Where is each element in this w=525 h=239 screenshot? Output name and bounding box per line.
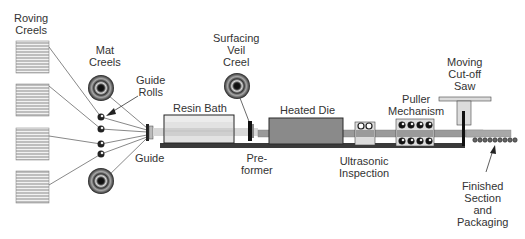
- label-moving-cutoff-saw: Moving Cut-off Saw: [447, 56, 482, 92]
- roving-creel-2: [16, 84, 49, 116]
- roving-creels: [16, 41, 49, 203]
- heated-die: [269, 118, 343, 144]
- finished-sections: [473, 138, 517, 142]
- label-mat-creels: Mat Creels: [89, 44, 121, 68]
- label-surfacing-veil-creel: Surfacing Veil Creel: [213, 32, 259, 68]
- label-resin-bath: Resin Bath: [173, 102, 227, 114]
- label-ultrasonic-inspection: Ultrasonic Inspection: [339, 155, 389, 179]
- label-preformer: Pre- former: [241, 152, 273, 176]
- preformer: [248, 121, 254, 141]
- roving-creel-1: [16, 41, 49, 73]
- label-puller-mechanism: Puller Mechanism: [388, 93, 444, 117]
- resin-bath: [164, 115, 234, 143]
- guide-rolls: [98, 114, 105, 158]
- finished-section-arrow: [486, 145, 496, 172]
- pultrusion-diagram: Roving Creels Mat Creels Guide Rolls Gui…: [0, 0, 525, 239]
- guide-plate: [146, 124, 153, 141]
- label-roving-creels: Roving Creels: [14, 12, 48, 36]
- label-guide-rolls: Guide Rolls: [136, 74, 165, 98]
- profile-stock-end: [466, 130, 511, 137]
- roving-creel-4: [16, 171, 49, 203]
- mat-creels: [88, 75, 114, 194]
- label-guide: Guide: [135, 152, 164, 164]
- puller-mechanism: [396, 119, 434, 146]
- guide-rolls-arrow: [106, 96, 138, 116]
- ultrasonic-inspection-unit: [355, 122, 375, 145]
- label-heated-die: Heated Die: [280, 104, 335, 116]
- roving-creel-3: [16, 128, 49, 160]
- label-finished-section: Finished Section and Packaging: [457, 180, 508, 228]
